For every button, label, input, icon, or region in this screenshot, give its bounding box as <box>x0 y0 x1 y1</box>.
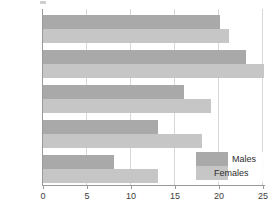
axis-top-marker <box>40 1 46 4</box>
bar-females-35-49 <box>43 134 202 148</box>
tick-mark-15 <box>175 185 176 189</box>
legend-item-females: Females <box>196 166 272 180</box>
bar-males-18-24 <box>43 50 246 64</box>
legend-label-males: Males <box>232 152 256 166</box>
tick-mark-0 <box>43 185 44 189</box>
tick-mark-25 <box>263 185 264 189</box>
tick-mark-20 <box>219 185 220 189</box>
x-tick-label-10: 10 <box>126 191 136 201</box>
x-axis-line <box>42 185 265 186</box>
bar-females-18-24 <box>43 64 264 78</box>
bar-males-50-59-64 <box>43 155 114 169</box>
x-tick-label-0: 0 <box>40 191 45 201</box>
tick-mark-10 <box>131 185 132 189</box>
bar-females-25-34 <box>43 99 211 113</box>
x-tick-label-20: 20 <box>214 191 224 201</box>
bar-males-16-17 <box>43 15 220 29</box>
chart-legend: Males Females <box>196 152 272 182</box>
bar-males-25-34 <box>43 85 184 99</box>
bar-males-35-49 <box>43 120 158 134</box>
x-tick-label-15: 15 <box>170 191 180 201</box>
legend-item-males: Males <box>196 152 272 166</box>
bar-females-50-59-64 <box>43 169 158 183</box>
bar-females-16-17 <box>43 29 229 43</box>
legend-swatch-males <box>196 152 228 166</box>
y-axis-line <box>42 9 43 186</box>
bar-chart: 16-17 18-24 25-34 35-49 50-59/642 0 5 <box>0 0 273 208</box>
tick-mark-5 <box>87 185 88 189</box>
x-tick-label-25: 25 <box>258 191 268 201</box>
x-tick-label-5: 5 <box>84 191 89 201</box>
legend-label-females: Females <box>214 166 249 180</box>
